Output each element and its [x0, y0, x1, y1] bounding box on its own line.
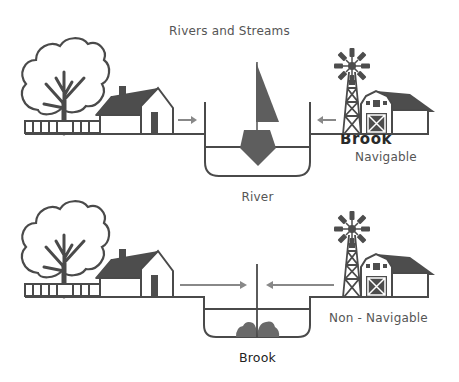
tree-icon [22, 38, 109, 134]
overlapping-brook-label: Brook [340, 134, 392, 146]
brook-panel [22, 201, 435, 297]
river-caption: River [205, 190, 310, 204]
house-icon [95, 249, 173, 297]
arrow-right-icon [180, 281, 247, 289]
fence-icon [25, 284, 100, 296]
sailboat-icon [240, 62, 279, 166]
brook-caption: Brook [205, 350, 310, 365]
barn-icon [361, 254, 435, 297]
rivers-and-streams-diagram: Rivers and Streams [0, 0, 459, 382]
tree-icon [22, 201, 109, 297]
arrow-left-icon [317, 116, 336, 124]
fence-icon [25, 121, 100, 133]
non-navigable-label: Non - Navigable [329, 311, 428, 325]
arrow-right-icon [178, 116, 197, 124]
house-icon [95, 86, 173, 134]
navigable-label: Navigable [355, 150, 417, 164]
barn-icon [361, 91, 435, 134]
arrow-left-icon [266, 281, 334, 289]
